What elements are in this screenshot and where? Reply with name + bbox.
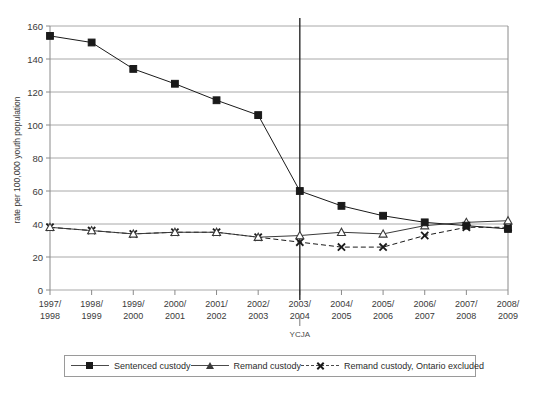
open-triangle-icon <box>206 362 214 369</box>
x-tick-label-9-line2: 2007 <box>415 311 435 321</box>
y-tick-120: 120 <box>27 87 43 98</box>
data-point-sentenced-custody-2 <box>130 66 137 73</box>
y-tick-140: 140 <box>27 54 43 65</box>
x-tick-label-8-line2: 2006 <box>373 311 393 321</box>
x-tick-label-2: 1999/ <box>122 299 145 309</box>
x-tick-label-3: 2000/ <box>164 299 187 309</box>
x-tick-label-11: 2008/ <box>497 299 520 309</box>
data-point-sentenced-custody-11 <box>505 226 512 233</box>
x-tick-label-8: 2005/ <box>372 299 395 309</box>
x-marker-icon <box>316 362 324 370</box>
series-remand-custody-ontario-excluded <box>46 224 511 251</box>
y-tick-0: 0 <box>38 285 43 296</box>
chart-legend: Sentenced custody Remand custody Remand … <box>64 355 476 377</box>
x-tick-label-7: 2004/ <box>330 299 353 309</box>
legend-label-remand-custody-ontario-excluded: Remand custody, Ontario excluded <box>342 361 484 371</box>
y-axis-tick-labels: 020406080100120140160 <box>27 21 43 296</box>
data-point-sentenced-custody-0 <box>47 33 54 40</box>
data-point-sentenced-custody-1 <box>88 39 95 46</box>
y-tick-100: 100 <box>27 120 43 131</box>
x-tick-label-1: 1998/ <box>80 299 103 309</box>
x-tick-label-3-line2: 2001 <box>165 311 185 321</box>
x-tick-label-11-line2: 2009 <box>498 311 518 321</box>
y-tick-160: 160 <box>27 21 43 32</box>
data-point-remand-custody-11 <box>504 217 512 224</box>
legend-label-remand-custody: Remand custody <box>232 361 302 371</box>
y-tick-40: 40 <box>32 219 43 230</box>
y-tick-60: 60 <box>32 186 43 197</box>
x-axis-tick-labels: 1997/19981998/19991999/20002000/20012001… <box>39 299 520 321</box>
series-sentenced-custody <box>47 33 512 233</box>
x-tick-label-0: 1997/ <box>39 299 62 309</box>
y-tick-80: 80 <box>32 153 43 164</box>
gridlines <box>50 26 508 290</box>
x-tick-label-10: 2007/ <box>455 299 478 309</box>
ycja-label: YCJA <box>290 330 311 339</box>
x-tick-label-7-line2: 2005 <box>331 311 351 321</box>
legend-item-remand-custody-ontario-excluded: Remand custody, Ontario excluded <box>301 360 484 372</box>
data-point-sentenced-custody-8 <box>380 212 387 219</box>
y-tick-20: 20 <box>32 252 43 263</box>
x-tick-label-2-line2: 2000 <box>123 311 143 321</box>
data-point-remand-custody-7 <box>337 228 345 235</box>
axis-frame <box>46 26 508 295</box>
x-tick-label-4: 2001/ <box>205 299 228 309</box>
chart-container: 020406080100120140160 1997/19981998/1999… <box>0 0 540 393</box>
x-tick-label-4-line2: 2002 <box>207 311 227 321</box>
x-tick-label-5-line2: 2003 <box>248 311 268 321</box>
x-tick-label-1-line2: 1999 <box>82 311 102 321</box>
legend-swatch-remand-custody <box>191 360 229 372</box>
series-remand-custody <box>46 217 512 241</box>
data-point-sentenced-custody-5 <box>255 112 262 119</box>
x-tick-label-6: 2003/ <box>289 299 312 309</box>
data-point-sentenced-custody-7 <box>338 202 345 209</box>
x-tick-label-5: 2002/ <box>247 299 270 309</box>
series-line-sentenced-custody <box>50 36 508 229</box>
filled-square-icon <box>86 362 93 369</box>
data-point-sentenced-custody-10 <box>463 222 470 229</box>
x-tick-label-0-line2: 1998 <box>40 311 60 321</box>
legend-swatch-remand-ontario-excluded <box>301 360 339 372</box>
legend-item-sentenced-custody: Sentenced custody <box>71 360 191 372</box>
data-point-sentenced-custody-6 <box>296 188 303 195</box>
data-series-layer <box>46 33 512 251</box>
data-point-sentenced-custody-9 <box>421 219 428 226</box>
line-chart: 020406080100120140160 1997/19981998/1999… <box>0 0 540 393</box>
x-tick-label-10-line2: 2008 <box>456 311 476 321</box>
data-point-sentenced-custody-3 <box>172 80 179 87</box>
legend-item-remand-custody: Remand custody <box>191 360 302 372</box>
legend-label-sentenced-custody: Sentenced custody <box>112 361 191 371</box>
x-tick-label-9: 2006/ <box>413 299 436 309</box>
series-line-remand-custody-ontario-excluded <box>50 227 508 247</box>
y-axis-title: rate per 100,000 youth population <box>12 96 22 223</box>
data-point-sentenced-custody-4 <box>213 97 220 104</box>
legend-swatch-sentenced-custody <box>71 360 109 372</box>
